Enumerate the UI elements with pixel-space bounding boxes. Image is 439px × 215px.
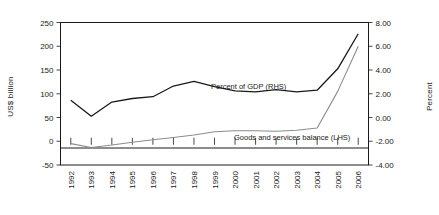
x-tick-label: 2002 (272, 170, 281, 188)
y-axis-left-ticks: -50050100150200250 (40, 19, 60, 171)
y-tick-label-left: 50 (45, 114, 54, 123)
y-axis-right-ticks: -4.00-2.000.002.004.006.008.00 (369, 19, 395, 171)
x-tick-label: 1994 (108, 170, 117, 188)
y-tick-label-right: 2.00 (376, 90, 392, 99)
x-tick-label: 2005 (334, 170, 343, 188)
y-axis-right-title: Percent (425, 67, 434, 127)
x-tick-label: 2006 (354, 170, 363, 188)
x-tick-label: 1998 (190, 170, 199, 188)
y-axis-left-title: US$ billion (6, 61, 15, 133)
x-tick-label: 1993 (87, 170, 96, 188)
x-tick-label: 2003 (293, 170, 302, 188)
x-tick-label: 1995 (128, 170, 137, 188)
y-tick-label-left: 250 (40, 19, 54, 28)
x-tick-label: 1997 (169, 170, 178, 188)
line-chart-plot: -50050100150200250 -4.00-2.000.002.004.0… (0, 0, 439, 215)
chart-figure: US$ billion Percent -50050100150200250 -… (0, 0, 439, 215)
y-tick-label-left: -50 (42, 161, 54, 170)
x-tick-label: 2001 (252, 170, 261, 188)
y-tick-label-right: -2.00 (376, 137, 395, 146)
y-tick-label-left: 150 (40, 66, 54, 75)
y-tick-label-left: 0 (49, 137, 54, 146)
y-tick-label-left: 100 (40, 90, 54, 99)
annotation-percent-of-gdp: Percent of GDP (RHS) (211, 82, 287, 91)
y-tick-label-right: 8.00 (376, 19, 392, 28)
x-tick-label: 2004 (313, 170, 322, 188)
y-tick-label-right: 4.00 (376, 66, 392, 75)
x-tick-label: 1992 (67, 170, 76, 188)
x-tick-label: 1999 (211, 170, 220, 188)
y-tick-label-right: 6.00 (376, 42, 392, 51)
x-tick-label: 2000 (231, 170, 240, 188)
y-tick-label-left: 200 (40, 42, 54, 51)
series-line-percent-of-gdp (71, 34, 358, 117)
x-tick-label: 1996 (149, 170, 158, 188)
y-tick-label-right: -4.00 (376, 161, 395, 170)
series-annotations: Percent of GDP (RHS)Goods and services b… (211, 82, 351, 142)
y-tick-label-right: 0.00 (376, 114, 392, 123)
annotation-goods-services-balance: Goods and services balance (LHS) (234, 133, 351, 142)
